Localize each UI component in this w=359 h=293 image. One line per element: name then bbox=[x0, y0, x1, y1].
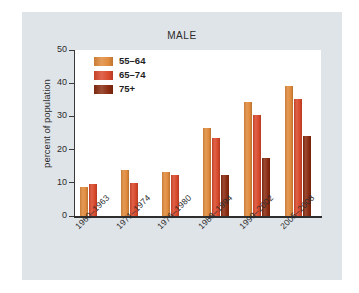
y-axis-tick-mark bbox=[69, 116, 74, 117]
bar bbox=[285, 86, 293, 216]
y-axis-line bbox=[74, 50, 75, 217]
figure-container: MALE 01020304050 percent of population 1… bbox=[0, 0, 359, 293]
y-axis-tick-mark bbox=[69, 149, 74, 150]
legend-swatch bbox=[94, 71, 113, 80]
bar bbox=[244, 102, 252, 216]
y-axis-tick-mark bbox=[69, 216, 74, 217]
y-axis-tick-label: 0 bbox=[45, 211, 67, 220]
legend-label: 75+ bbox=[119, 84, 135, 94]
chart-legend: 55–6465–7475+ bbox=[94, 55, 189, 97]
legend-item: 55–64 bbox=[94, 55, 189, 67]
legend-swatch bbox=[94, 85, 113, 94]
chart-card: MALE 01020304050 percent of population 1… bbox=[22, 12, 342, 280]
legend-label: 55–64 bbox=[119, 56, 145, 66]
y-axis-tick-mark bbox=[69, 182, 74, 183]
bar bbox=[294, 99, 302, 216]
legend-swatch bbox=[94, 57, 113, 66]
legend-item: 75+ bbox=[94, 83, 189, 95]
y-axis-title: percent of population bbox=[41, 54, 52, 194]
chart-title: MALE bbox=[22, 30, 342, 41]
y-axis-tick-mark bbox=[69, 83, 74, 84]
legend-label: 65–74 bbox=[119, 70, 145, 80]
legend-item: 65–74 bbox=[94, 69, 189, 81]
y-axis-tick-mark bbox=[69, 50, 74, 51]
bar bbox=[203, 128, 211, 216]
